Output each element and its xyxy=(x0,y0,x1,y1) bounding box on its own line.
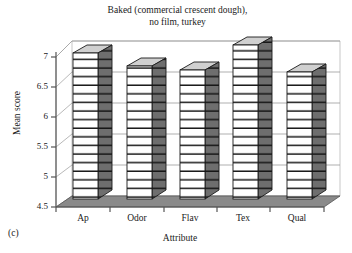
y-tick-label: 6 xyxy=(24,111,48,121)
x-tick-label-flav: Flav xyxy=(167,213,213,223)
bar-qual[interactable] xyxy=(287,64,326,199)
bar-ap[interactable] xyxy=(73,45,112,199)
x-tick-label-odor: Odor xyxy=(114,213,160,223)
figure-container: Baked (commercial crescent dough), no fi… xyxy=(0,0,352,253)
y-tick-label: 5 xyxy=(24,171,48,181)
x-axis xyxy=(56,207,324,212)
gridline-depth-links xyxy=(56,41,72,207)
y-axis xyxy=(51,52,56,207)
y-tick-label: 7 xyxy=(24,51,48,61)
x-tick-label-qual: Qual xyxy=(274,213,320,223)
x-axis-label: Attribute xyxy=(120,233,240,243)
subfigure-label: (c) xyxy=(8,228,19,238)
bar-tex[interactable] xyxy=(233,37,272,199)
y-axis-label: Mean score xyxy=(12,83,22,143)
bar-odor[interactable] xyxy=(127,58,166,199)
y-tick-label: 4.5 xyxy=(24,201,48,211)
y-tick-label: 5.5 xyxy=(24,141,48,151)
x-tick-label-ap: Ap xyxy=(60,213,106,223)
x-tick-label-tex: Tex xyxy=(220,213,266,223)
plot-depth-edges xyxy=(56,41,72,207)
y-tick-label: 6.5 xyxy=(24,81,48,91)
bar-flav[interactable] xyxy=(180,62,219,199)
